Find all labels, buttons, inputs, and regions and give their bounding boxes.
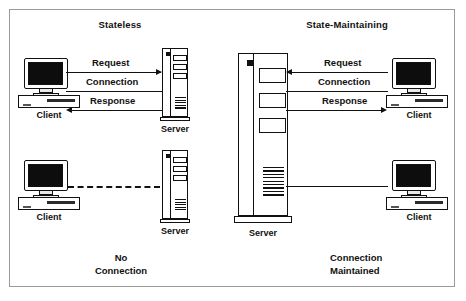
- flow-line-request-left: [66, 72, 161, 73]
- monitor-screen: [396, 164, 431, 187]
- client-node-state-maintaining-top: [386, 58, 448, 106]
- client-node-stateless-top: [18, 58, 80, 106]
- diagram-frame: [9, 9, 455, 287]
- client-label-state-maintaining-bottom: Client: [380, 212, 458, 222]
- drive-bay: [259, 68, 286, 83]
- link-line-no-connection: [68, 186, 160, 188]
- drive-bay: [259, 118, 286, 133]
- monitor-bezel: [24, 58, 68, 89]
- server-chassis: [238, 53, 288, 216]
- panel-title-state-maintaining: State-Maintaining: [272, 19, 422, 30]
- monitor-screen: [396, 62, 431, 85]
- server-node-stateless-top: [160, 48, 190, 123]
- arrowhead-response-left: [66, 107, 72, 113]
- server-chassis: [162, 48, 188, 117]
- caption-stateless: No Connection: [62, 252, 180, 277]
- flow-label-response-right: Response: [320, 95, 369, 106]
- flow-line-request-right: [292, 72, 388, 73]
- flow-label-connection-right: Connection: [316, 76, 372, 87]
- client-label-state-maintaining-top: Client: [380, 110, 458, 120]
- server-label-stateless-top: Server: [140, 124, 210, 134]
- server-node-state-maintaining: [234, 53, 292, 225]
- flow-label-request-left: Request: [90, 57, 131, 68]
- status-led-icon: [166, 52, 170, 56]
- caption-state-maintaining: Connection Maintained: [330, 252, 450, 277]
- flow-line-response-left: [72, 110, 162, 111]
- drive-bay: [173, 166, 187, 172]
- vent-grille-icon: [175, 199, 186, 212]
- drive-bay: [173, 73, 187, 79]
- arrowhead-request-left: [156, 69, 162, 75]
- arrowhead-request-right: [286, 69, 292, 75]
- server-panel-divider: [253, 54, 254, 217]
- server-base: [160, 219, 190, 223]
- flow-label-response-left: Response: [88, 95, 137, 106]
- vent-grille-icon: [263, 167, 284, 197]
- drive-bay: [173, 157, 187, 163]
- status-led-icon: [247, 60, 254, 66]
- client-node-stateless-bottom: [18, 160, 80, 208]
- server-base: [160, 117, 190, 121]
- server-label-state-maintaining: Server: [228, 228, 298, 238]
- drive-slot: [415, 99, 443, 102]
- caption-state-maintaining-line2: Maintained: [330, 265, 450, 278]
- drive-slot: [47, 201, 75, 204]
- flow-label-connection-left: Connection: [84, 76, 140, 87]
- arrowhead-response-right: [381, 107, 387, 113]
- drive-bay: [173, 55, 187, 61]
- flow-label-request-right: Request: [322, 57, 363, 68]
- desktop-case: [386, 197, 448, 210]
- monitor-screen: [28, 62, 63, 85]
- server-panel-divider: [170, 49, 171, 118]
- caption-stateless-line2: Connection: [62, 265, 180, 278]
- flow-line-connection-right: [286, 91, 388, 92]
- drive-bay: [173, 175, 187, 181]
- desktop-case: [386, 95, 448, 108]
- server-panel-divider: [170, 151, 171, 220]
- vent-grille-icon: [175, 97, 186, 110]
- flow-line-connection-left: [66, 91, 162, 92]
- drive-slot: [415, 201, 443, 204]
- flow-line-response-right: [286, 110, 382, 111]
- diagram-canvas: Stateless Client Server Request Connecti…: [0, 0, 466, 301]
- panel-title-stateless: Stateless: [60, 19, 180, 30]
- client-label-stateless-top: Client: [10, 110, 88, 120]
- monitor-bezel: [392, 58, 436, 89]
- drive-bay: [173, 64, 187, 70]
- monitor-screen: [28, 164, 63, 187]
- caption-stateless-line1: No: [62, 252, 180, 265]
- status-led-icon: [166, 154, 170, 158]
- power-button-icon: [23, 206, 31, 209]
- drive-bay: [259, 93, 286, 108]
- server-node-stateless-bottom: [160, 150, 190, 225]
- drive-slot: [47, 99, 75, 102]
- monitor-bezel: [392, 160, 436, 191]
- link-line-connection-maintained: [286, 186, 388, 187]
- power-button-icon: [391, 206, 399, 209]
- client-label-stateless-bottom: Client: [10, 212, 88, 222]
- caption-state-maintaining-line1: Connection: [330, 252, 450, 265]
- monitor-bezel: [24, 160, 68, 191]
- power-button-icon: [391, 104, 399, 107]
- server-chassis: [162, 150, 188, 219]
- power-button-icon: [23, 104, 31, 107]
- server-base: [234, 216, 292, 223]
- client-node-state-maintaining-bottom: [386, 160, 448, 208]
- server-label-stateless-bottom: Server: [140, 226, 210, 236]
- desktop-case: [18, 197, 80, 210]
